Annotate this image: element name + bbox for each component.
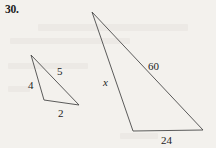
small-triangle-base-label: 2 [58, 108, 64, 119]
large-triangle-left-side-label: x [103, 77, 108, 88]
triangles-diagram [0, 0, 216, 148]
large-triangle-hypotenuse-label: 60 [148, 61, 159, 72]
small-triangle-base [44, 100, 79, 105]
large-triangle-base [133, 130, 203, 131]
large-triangle-left-side [92, 12, 133, 131]
small-triangle-left-side-label: 4 [28, 80, 34, 91]
small-triangle-shape [31, 55, 79, 105]
small-triangle-hypotenuse-label: 5 [57, 66, 63, 77]
large-triangle-base-label: 24 [161, 135, 172, 146]
geometry-figure-canvas: 30. 4 5 2 x 60 24 [0, 0, 216, 148]
